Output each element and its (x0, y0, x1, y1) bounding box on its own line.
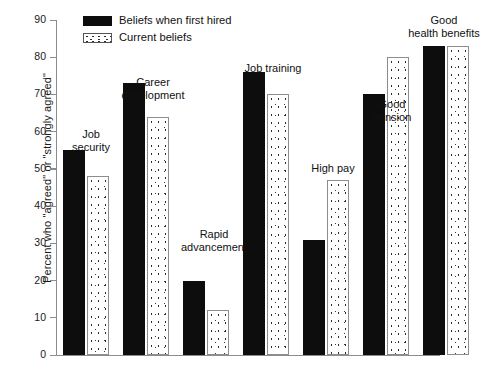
bar-group (183, 20, 229, 355)
bar-group (423, 20, 469, 355)
bar-group (63, 20, 109, 355)
legend-item-beliefs-when-first-hired: Beliefs when first hired (83, 13, 232, 28)
y-axis-tick-label: 40 (20, 200, 46, 211)
bar (123, 83, 145, 355)
category-label: Goodpension (345, 98, 439, 123)
y-axis-tick-label: 0 (20, 349, 46, 360)
bar (207, 310, 229, 355)
category-label: Rapidadvancement (161, 228, 267, 253)
bar (183, 281, 205, 355)
category-label-line: Job (49, 128, 133, 141)
y-axis-tick-label: 70 (20, 88, 46, 99)
bar-group (123, 20, 169, 355)
y-axis-tick (50, 317, 57, 318)
y-axis-tick (50, 206, 57, 207)
bar (447, 46, 469, 355)
category-label: Careerdevelopment (103, 76, 203, 101)
category-label-line: health benefits (379, 27, 484, 40)
legend-swatch-solid-icon (83, 16, 112, 26)
y-axis-tick-label-wrap: 30 (18, 237, 46, 249)
category-label: Goodhealth benefits (379, 14, 484, 39)
category-label-line: security (49, 141, 133, 154)
y-axis-tick-label: 10 (20, 312, 46, 323)
category-label-line: High pay (287, 162, 379, 175)
legend-label: Current beliefs (119, 30, 192, 45)
legend-item-current-beliefs: Current beliefs (83, 30, 232, 45)
legend-label: Beliefs when first hired (119, 13, 232, 28)
bar (423, 46, 445, 355)
bar (363, 94, 385, 355)
bar (303, 240, 325, 355)
category-label: Jobsecurity (49, 128, 133, 153)
y-axis-tick (50, 168, 57, 169)
y-axis-tick-label-wrap: 50 (18, 163, 46, 175)
y-axis-tick (50, 57, 57, 58)
bar (327, 180, 349, 355)
legend-swatch-dotted-icon (83, 33, 112, 43)
y-axis-tick-label-wrap: 40 (18, 200, 46, 212)
y-axis-tick-label: 20 (20, 275, 46, 286)
y-axis-tick-label-wrap: 70 (18, 88, 46, 100)
y-axis-tick-label-wrap: 90 (18, 14, 46, 26)
category-label-line: development (103, 89, 203, 102)
y-axis-tick-label-wrap: 60 (18, 126, 46, 138)
category-label-line: Career (103, 76, 203, 89)
category-label-line: Good (379, 14, 484, 27)
y-axis-tick-label-wrap: 80 (18, 51, 46, 63)
bar (87, 176, 109, 355)
chart-legend: Beliefs when first hired Current beliefs (83, 13, 232, 47)
y-axis-tick-label: 80 (20, 51, 46, 62)
y-axis-tick (50, 355, 57, 356)
y-axis-tick-label: 60 (20, 126, 46, 137)
y-axis-tick (50, 243, 57, 244)
y-axis-tick-label: 30 (20, 237, 46, 248)
category-label-line: advancement (161, 241, 267, 254)
y-axis-tick-label-wrap: 20 (18, 275, 46, 287)
category-label-line: Job training (227, 62, 319, 75)
category-label: Job training (227, 62, 319, 75)
bar-group (363, 20, 409, 355)
bar (267, 94, 289, 355)
bar (243, 72, 265, 355)
y-axis-tick (50, 20, 57, 21)
y-axis-tick-label: 90 (20, 14, 46, 25)
category-label-line: Good (345, 98, 439, 111)
x-axis-line (56, 355, 440, 356)
category-label: High pay (287, 162, 379, 175)
category-label-line: Rapid (161, 228, 267, 241)
y-axis-tick (50, 280, 57, 281)
y-axis-tick-label-wrap: 10 (18, 312, 46, 324)
y-axis-tick-label-wrap: 0 (18, 349, 46, 361)
bar (63, 150, 85, 355)
category-label-line: pension (345, 111, 439, 124)
y-axis-tick (50, 94, 57, 95)
y-axis-tick-label: 50 (20, 163, 46, 174)
